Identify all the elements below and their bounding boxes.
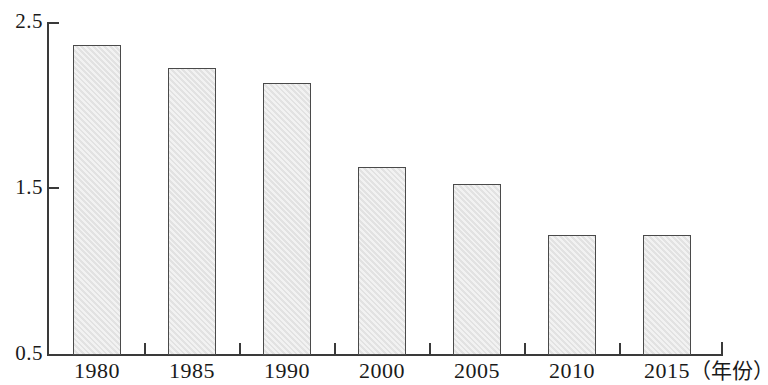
y-axis-tick-label: 0.5 xyxy=(3,343,43,364)
x-axis-minor-tick xyxy=(144,343,146,355)
x-axis-minor-tick xyxy=(619,343,621,355)
x-axis-minor-tick xyxy=(524,343,526,355)
bar xyxy=(643,235,691,355)
bar xyxy=(548,235,596,355)
bar xyxy=(263,83,311,355)
plot-area xyxy=(49,22,723,355)
y-axis-tick-label: 2.5 xyxy=(3,11,43,32)
bar xyxy=(73,45,121,355)
x-axis-tick-label: 2010 xyxy=(522,358,622,384)
bar xyxy=(453,184,501,355)
bar xyxy=(168,68,216,355)
x-axis-tick-label: 1980 xyxy=(47,358,147,384)
x-axis-tick-label: 2000 xyxy=(332,358,432,384)
x-axis-tick-label: 1990 xyxy=(237,358,337,384)
bar xyxy=(358,167,406,355)
x-axis-minor-tick xyxy=(239,343,241,355)
x-axis-minor-tick xyxy=(334,343,336,355)
bar-chart: 2.51.50.5 1980198519902000200520102015 （… xyxy=(0,0,768,385)
x-axis-minor-tick xyxy=(429,343,431,355)
y-axis-tick-label: 1.5 xyxy=(3,177,43,198)
x-axis-tick-label: 2005 xyxy=(427,358,527,384)
x-axis-tick-label: 1985 xyxy=(142,358,242,384)
x-axis-title: （年份） xyxy=(690,358,768,384)
